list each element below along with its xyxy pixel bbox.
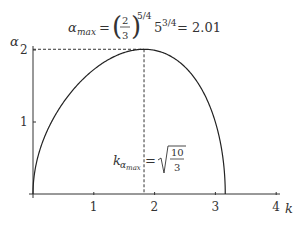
x-ticks: 1234 — [90, 192, 280, 214]
y-axis-label: α — [10, 34, 19, 49]
svg-text:=: = — [99, 20, 110, 35]
svg-text:2: 2 — [122, 15, 128, 26]
svg-text:3: 3 — [174, 162, 180, 173]
svg-text:3: 3 — [122, 30, 128, 41]
x-tick-label: 3 — [211, 200, 219, 214]
svg-text:3/4: 3/4 — [162, 18, 177, 28]
y-tick-label: 2 — [20, 43, 28, 57]
svg-text:= 2.01: = 2.01 — [177, 20, 221, 35]
x-tick-label: 1 — [90, 200, 98, 214]
svg-text:max: max — [77, 27, 96, 37]
x-tick-label: 2 — [151, 200, 159, 214]
svg-text:α: α — [68, 20, 77, 35]
chart: 1234 12 k α α max = ( 2 3 ) 5/4 5 3/4 = … — [0, 0, 302, 226]
svg-text:5/4: 5/4 — [137, 11, 152, 21]
k-alpha-max-annotation: k α max = 10 3 — [113, 146, 186, 173]
x-tick-label: 4 — [272, 200, 280, 214]
svg-text:=: = — [145, 153, 156, 168]
svg-text:max: max — [126, 164, 141, 172]
svg-text:10: 10 — [171, 147, 184, 158]
alpha-curve — [33, 49, 225, 194]
alpha-max-annotation: α max = ( 2 3 ) 5/4 5 3/4 = 2.01 — [68, 11, 221, 41]
svg-text:(: ( — [112, 11, 122, 41]
x-axis-label: k — [285, 201, 293, 216]
y-ticks: 12 — [20, 43, 36, 129]
y-tick-label: 1 — [20, 115, 28, 129]
